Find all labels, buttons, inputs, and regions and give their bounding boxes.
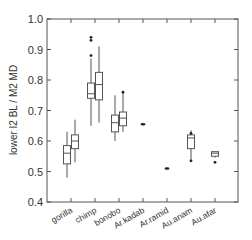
- x-tick-label: gorilla: [49, 205, 74, 225]
- outlier-point: [90, 36, 93, 39]
- outlier-point: [190, 159, 193, 162]
- box-plot-chart: 0.40.50.60.70.80.91.0 gorillachimpbonobo…: [0, 0, 252, 240]
- box: [112, 115, 119, 132]
- outlier-point: [190, 132, 193, 135]
- plot-border: [47, 19, 238, 202]
- y-tick-label: 1.0: [28, 13, 43, 25]
- outlier-point: [90, 54, 93, 57]
- outlier-point: [214, 161, 217, 164]
- y-tick-label: 0.7: [28, 105, 43, 117]
- box: [188, 135, 195, 149]
- data-point: [141, 123, 146, 126]
- outlier-point: [90, 39, 93, 42]
- y-tick-label: 0.4: [28, 196, 43, 208]
- data-point: [165, 167, 170, 170]
- box: [96, 72, 103, 99]
- y-tick-label: 0.6: [28, 135, 43, 147]
- box-group-ar-kadab: [141, 123, 146, 126]
- y-tick-label: 0.9: [28, 44, 43, 56]
- box-group-ar-ramid: [165, 167, 170, 170]
- box: [212, 152, 219, 157]
- y-axis-label: lower I2 BL / M2 MD: [8, 65, 19, 155]
- y-axis: 0.40.50.60.70.80.91.0: [28, 13, 238, 208]
- box: [88, 83, 95, 98]
- x-tick-label: Au.afar: [189, 205, 218, 227]
- plot-frame: [47, 19, 238, 202]
- box: [120, 112, 127, 126]
- box-group-chimp: [88, 36, 103, 126]
- box: [72, 135, 79, 149]
- box: [64, 146, 71, 164]
- box-series: [64, 36, 219, 178]
- outlier-point: [122, 91, 125, 94]
- box-group-au-anam: [188, 130, 195, 162]
- box-group-bonobo: [112, 91, 127, 141]
- y-tick-label: 0.8: [28, 74, 43, 86]
- box-group-gorilla: [64, 120, 79, 178]
- y-tick-label: 0.5: [28, 166, 43, 178]
- box-group-au-afar: [212, 152, 219, 164]
